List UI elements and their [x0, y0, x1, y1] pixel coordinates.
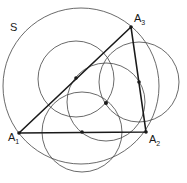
vertex-A3-dot [129, 25, 133, 29]
vertex-A1-dot [17, 131, 21, 135]
geometry-diagram: S A1 A2 A3 [0, 0, 187, 183]
midpoint-A2A3-dot [137, 80, 141, 84]
center-point-dot [104, 101, 108, 105]
midpoint-A1A2-dot [80, 130, 84, 134]
label-A3: A3 [134, 12, 145, 26]
midpoint-A1A3-dot [74, 76, 78, 80]
label-S: S [10, 21, 17, 33]
label-A2: A2 [149, 133, 160, 147]
circle-S [3, 8, 159, 164]
vertex-A2-dot [144, 130, 148, 134]
